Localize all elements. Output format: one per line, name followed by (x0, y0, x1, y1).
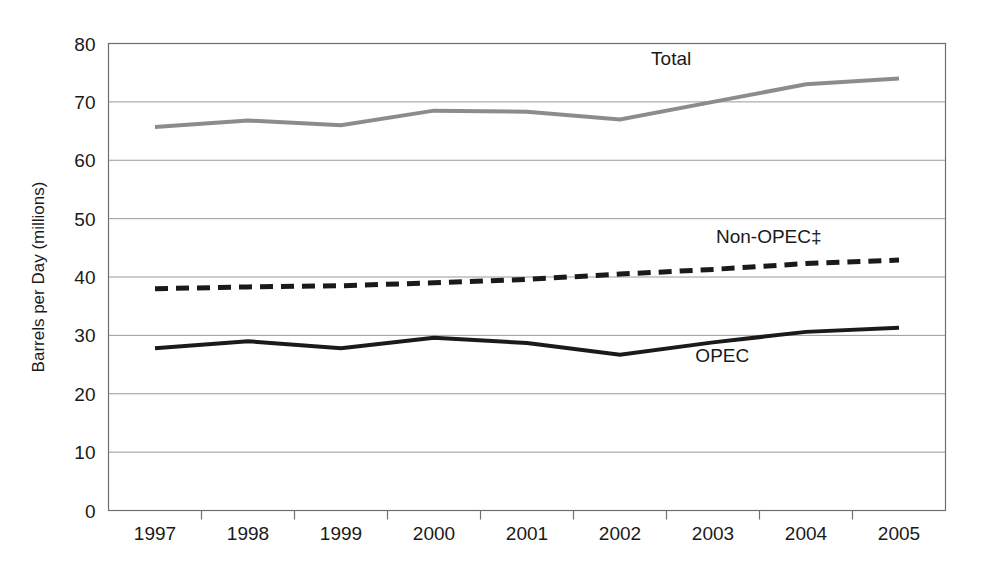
y-tick-label-60: 60 (74, 150, 95, 171)
x-tick-label-2005: 2005 (878, 523, 920, 544)
y-axis-tick-labels: 01020304050607080 (74, 34, 95, 522)
x-tick-label-2000: 2000 (413, 523, 455, 544)
x-tick-label-2002: 2002 (599, 523, 641, 544)
y-tick-label-40: 40 (74, 267, 95, 288)
x-tick-label-1998: 1998 (227, 523, 269, 544)
y-tick-label-30: 30 (74, 325, 95, 346)
y-tick-label-20: 20 (74, 384, 95, 405)
y-tick-label-80: 80 (74, 34, 95, 55)
series-label-total: Total (651, 48, 691, 69)
y-tick-label-70: 70 (74, 92, 95, 113)
series-label-non-opec: Non-OPEC‡ (716, 226, 822, 247)
x-tick-label-2004: 2004 (785, 523, 828, 544)
y-axis-title: Barrels per Day (millions) (29, 182, 48, 373)
chart-background (0, 0, 981, 582)
x-tick-label-2003: 2003 (692, 523, 734, 544)
x-tick-label-1999: 1999 (320, 523, 362, 544)
x-axis-tick-labels: 199719981999200020012002200320042005 (134, 523, 920, 544)
x-tick-label-1997: 1997 (134, 523, 176, 544)
y-tick-label-10: 10 (74, 442, 95, 463)
y-tick-label-50: 50 (74, 209, 95, 230)
y-tick-label-0: 0 (85, 501, 96, 522)
series-label-opec: OPEC (695, 345, 749, 366)
chart-figure: 01020304050607080 1997199819992000200120… (0, 0, 981, 582)
x-tick-label-2001: 2001 (506, 523, 548, 544)
line-chart: 01020304050607080 1997199819992000200120… (0, 0, 981, 582)
